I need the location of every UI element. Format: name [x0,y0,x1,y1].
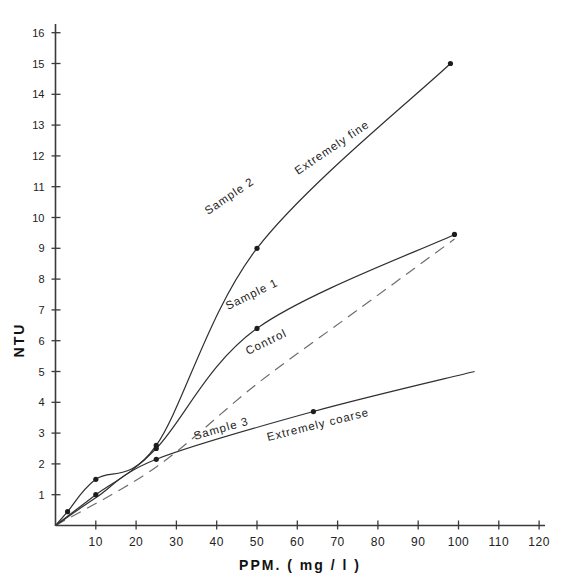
x-tick-label: 10 [89,535,103,549]
y-tick-label: 6 [38,335,44,347]
data-point [254,326,259,331]
x-tick-label: 120 [528,535,550,549]
data-point [254,246,259,251]
data-point [154,457,159,462]
x-tick-label: 20 [129,535,143,549]
y-tick-label: 13 [32,119,44,131]
y-tick-label: 11 [33,181,44,193]
data-point [93,492,98,497]
curve-sample-3 [56,372,475,526]
data-point [93,477,98,482]
data-point [452,232,457,237]
curve-label-sample-3-desc: Extremely coarse [266,406,371,443]
data-curves [56,64,475,526]
data-point [65,509,70,514]
y-tick-label: 15 [32,58,44,70]
y-tick-label: 4 [38,396,44,408]
curve-label-sample-1: Sample 1 [224,276,280,312]
curve-label-sample-2-desc: Extremely fine [292,118,371,177]
y-tick-label: 14 [32,88,44,100]
chart-figure: 12345678910111213141516 1020304050607080… [0,0,563,583]
curve-label-control: Control [244,327,289,357]
y-tick-label: 8 [38,273,44,285]
x-tick-label: 110 [488,535,509,549]
x-tick-label: 60 [290,535,304,549]
y-tick-label: 9 [38,242,44,254]
x-tick-label: 90 [411,535,425,549]
y-tick-label: 1 [38,489,44,501]
y-axis-title: NTU [11,323,27,358]
y-tick-label: 2 [38,458,44,470]
curve-label-sample-2: Sample 2 [202,175,256,217]
x-tick-label: 30 [169,535,183,549]
y-tick-label: 7 [38,304,44,316]
data-point [311,409,316,414]
y-tick-label: 10 [32,212,44,224]
x-tick-label: 40 [210,535,224,549]
data-point [448,61,453,66]
x-tick-label: 100 [448,535,470,549]
chart-svg: 12345678910111213141516 1020304050607080… [0,0,563,583]
y-tick-label: 12 [32,150,44,162]
x-tick-label: 70 [330,535,344,549]
y-tick-label: 3 [38,427,44,439]
y-tick-label: 5 [38,366,44,378]
data-point [154,446,159,451]
y-tick-label: 16 [32,27,44,39]
x-axis-title: PPM. ( mg / l ) [239,557,361,573]
x-tick-label: 50 [250,535,264,549]
x-tick-label: 80 [371,535,385,549]
